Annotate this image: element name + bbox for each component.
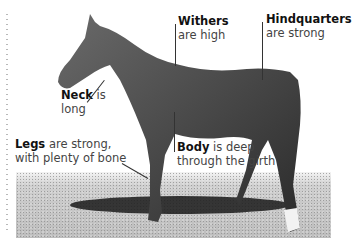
label-withers: Withers are high (178, 14, 229, 42)
withers-leader-line (175, 24, 176, 66)
label-body: Body is deep through the girth (177, 140, 275, 168)
label-hindquarters: Hindquarters are strong (266, 12, 352, 40)
label-legs: Legs are strong, with plenty of bone (15, 137, 126, 165)
white-sock (284, 208, 300, 232)
hindquarters-leader-line (262, 22, 263, 80)
horse-shadow (70, 196, 290, 214)
label-neck: Neck is long (61, 88, 106, 116)
body-leader-line (174, 112, 175, 152)
